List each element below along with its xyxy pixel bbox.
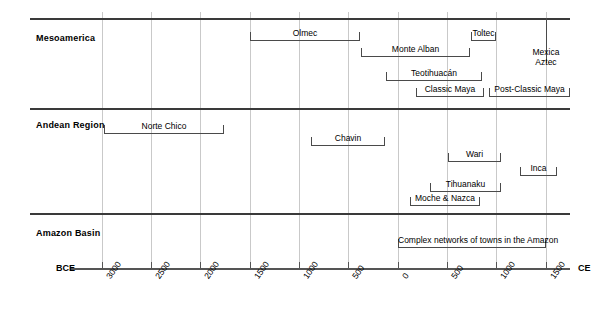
span-bar-teotihuac-n [386, 80, 482, 81]
timeline-span-norte-chico: Norte Chico [104, 121, 224, 134]
timeline-span-chavin: Chavin [311, 133, 385, 146]
span-bar-inca [520, 175, 557, 176]
timeline-chart: 30002500200015001000500050010001500BCECE… [0, 0, 610, 309]
gridline-2500-1 [151, 12, 152, 268]
gridline-3000-0 [102, 12, 103, 268]
row-label-andean-region: Andean Region [36, 120, 105, 130]
free-label-line: Mexica [506, 47, 586, 57]
timeline-span-teotihuac-n: Teotihuacán [386, 68, 482, 81]
axis-tick-label-500-5: 500 [350, 263, 366, 280]
timeline-span-moche-nazca: Moche & Nazca [410, 193, 480, 206]
span-label-inca: Inca [520, 163, 557, 173]
axis-tick-label-500-7: 500 [449, 263, 465, 280]
timeline-span-tihuanaku: Tihuanaku [430, 179, 501, 192]
timeline-span-post-classic-maya: Post-Classic Maya [489, 84, 570, 97]
span-label-tihuanaku: Tihuanaku [430, 179, 501, 189]
axis-tick-label-1000-4: 1000 [301, 260, 320, 281]
andean-rule [30, 108, 570, 110]
axis-tick-label-2000-2: 2000 [202, 260, 221, 281]
row-label-amazon-basin: Amazon Basin [36, 228, 100, 238]
span-bar-olmec [250, 40, 360, 41]
timeline-span-wari: Wari [448, 149, 501, 162]
gridline-1000-4 [299, 12, 300, 268]
gridline-1000-8 [496, 12, 497, 268]
axis-tick-9 [546, 262, 547, 269]
timeline-span-complex-networks-of-towns-in-the-amazon: Complex networks of towns in the Amazon [398, 235, 546, 248]
span-label-toltec: Toltec [471, 28, 496, 38]
axis-tick-label-1000-8: 1000 [498, 260, 517, 281]
span-label-chavin: Chavin [311, 133, 385, 143]
free-label-line: Aztec [506, 57, 586, 67]
span-label-wari: Wari [448, 149, 501, 159]
gridline-2000-2 [200, 12, 201, 268]
axis-tick-label-3000-0: 3000 [104, 260, 123, 281]
span-label-classic-maya: Classic Maya [416, 84, 484, 94]
span-label-norte-chico: Norte Chico [104, 121, 224, 131]
axis-tick-3 [250, 262, 251, 269]
timeline-span-toltec: Toltec [471, 28, 496, 41]
row-label-mesoamerica: Mesoamerica [36, 33, 95, 43]
axis-tick-7 [447, 262, 448, 269]
axis-tick-8 [496, 262, 497, 269]
timeline-span-monte-alban: Monte Alban [361, 44, 470, 57]
span-label-post-classic-maya: Post-Classic Maya [489, 84, 570, 94]
x-axis-line [70, 268, 570, 270]
span-label-complex-networks-of-towns-in-the-amazon: Complex networks of towns in the Amazon [398, 235, 546, 245]
span-bar-norte-chico [104, 133, 224, 134]
amazon-rule [30, 213, 570, 215]
span-bar-toltec [471, 40, 496, 41]
span-bar-chavin [311, 145, 385, 146]
span-bar-post-classic-maya [489, 96, 570, 97]
span-bar-monte-alban [361, 56, 470, 57]
axis-tick-label-2500-1: 2500 [153, 260, 172, 281]
axis-bce-label: BCE [56, 263, 75, 273]
axis-tick-1 [151, 262, 152, 269]
axis-tick-label-0-6: 0 [400, 271, 411, 281]
axis-tick-label-1500-9: 1500 [548, 260, 567, 281]
axis-tick-4 [299, 262, 300, 269]
axis-ce-label: CE [578, 263, 591, 273]
span-bar-moche-nazca [410, 205, 480, 206]
span-label-olmec: Olmec [250, 28, 360, 38]
gridline-1500-3 [250, 12, 251, 268]
axis-tick-5 [348, 262, 349, 269]
free-label-mexica-aztec: MexicaAztec [506, 47, 586, 67]
timeline-span-inca: Inca [520, 163, 557, 176]
timeline-span-olmec: Olmec [250, 28, 360, 41]
span-bar-complex-networks-of-towns-in-the-amazon [398, 247, 546, 248]
span-label-moche-nazca: Moche & Nazca [410, 193, 480, 203]
mesoamerica-rule [30, 18, 570, 20]
axis-tick-0 [102, 262, 103, 269]
span-label-monte-alban: Monte Alban [361, 44, 470, 54]
axis-tick-label-1500-3: 1500 [252, 260, 271, 281]
span-label-teotihuac-n: Teotihuacán [386, 68, 482, 78]
span-bar-wari [448, 161, 501, 162]
span-bar-tihuanaku [430, 191, 501, 192]
axis-tick-6 [398, 262, 399, 269]
timeline-span-classic-maya: Classic Maya [416, 84, 484, 97]
span-bar-classic-maya [416, 96, 484, 97]
axis-tick-2 [200, 262, 201, 269]
